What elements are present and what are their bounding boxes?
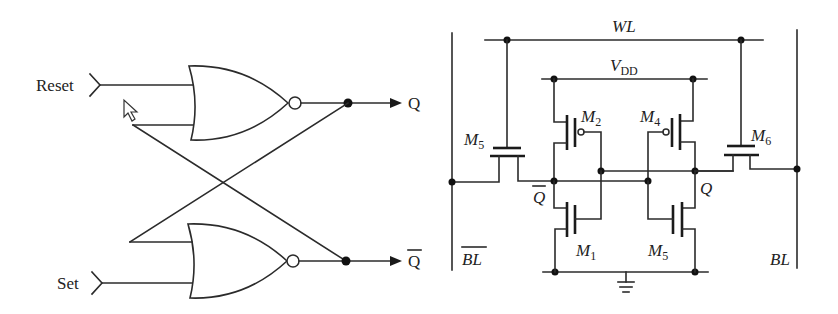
m5-left-label: M5: [463, 130, 484, 152]
q-arrow-icon: [390, 98, 402, 108]
m1-gate-wire: [575, 171, 601, 219]
wl-label: WL: [612, 17, 636, 36]
m4-drain-wire: [681, 142, 695, 171]
sram-6t-cell: BL BL WL VDD M5: [449, 17, 801, 292]
set-input-chevron-icon: [92, 272, 102, 294]
reset-label: Reset: [36, 76, 74, 95]
bl-label: BL: [770, 250, 790, 269]
m5r-drain-wire: [683, 171, 695, 208]
reset-input-chevron-icon: [90, 74, 100, 96]
bl-bar-label: BL: [462, 250, 482, 269]
qbar-output-label: Q: [408, 252, 420, 271]
q-node-label: Q: [700, 179, 712, 198]
m6-drain-wire: [695, 155, 733, 171]
lower-nor-bubble: [287, 255, 299, 267]
m4-label: M4: [639, 107, 660, 129]
m5r-source-wire: [683, 229, 695, 272]
m5-drain-wire: [452, 156, 499, 182]
m1-label: M1: [575, 241, 596, 263]
upper-nor-bubble: [289, 97, 301, 109]
m4-source-wire: [681, 79, 693, 121]
m2-source-wire: [554, 79, 566, 122]
m1-source-wire: [555, 229, 566, 272]
m2-label: M2: [580, 107, 601, 129]
mouse-pointer-icon: [124, 100, 137, 121]
m2-drain-wire: [554, 143, 566, 181]
qbar-arrow-icon: [390, 256, 402, 266]
lower-nor-gate: [188, 224, 287, 298]
m2-gate-bubble: [578, 129, 584, 135]
m5r-gate-wire: [648, 181, 673, 219]
m4-gate-wire: [648, 132, 663, 181]
m5-source-wire: [518, 156, 648, 181]
set-label: Set: [57, 274, 79, 293]
vdd-label: VDD: [610, 56, 638, 78]
m6-label: M6: [750, 126, 771, 148]
qbar-junction: [342, 257, 351, 266]
q-bar-node-label: Q: [533, 188, 545, 207]
m1-drain-wire: [554, 181, 566, 208]
bl-bar-junction: [449, 179, 456, 186]
ground-icon: [618, 272, 634, 292]
m5-right-label: M5: [647, 241, 668, 263]
m2-gate-wire: [584, 132, 601, 171]
upper-nor-gate: [189, 66, 288, 140]
circuit-diagram: Reset Q Q Set BL BL: [0, 0, 838, 314]
sr-latch: Reset Q Q Set: [36, 66, 421, 298]
m4-gate-bubble: [663, 129, 669, 135]
q-output-label: Q: [408, 94, 420, 113]
bl-junction: [794, 166, 801, 173]
m6-source-wire: [750, 155, 797, 169]
